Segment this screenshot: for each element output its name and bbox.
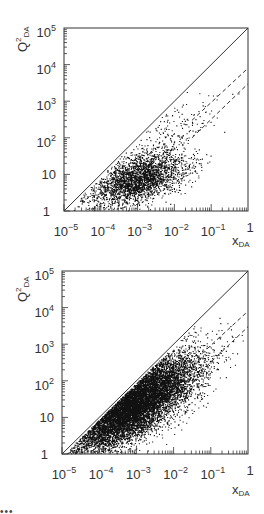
scatter-points [67,318,243,455]
y-label-sup: 2 [14,37,23,41]
y-tick-label: 103 [37,95,56,112]
x-tick-label: 10−1 [201,221,226,238]
x-tick-label: 10−2 [164,221,189,238]
y-tick-label: 1 [41,448,48,461]
y-label-sub: DA [22,276,31,287]
scatter-plot-top: Q2DA xDA 110102103104105 10−510−410−310−… [0,0,264,250]
x-tick-label: 10−5 [52,464,77,481]
scatter-points [74,92,240,211]
x-tick-label: 1 [246,464,253,477]
y-tick-label: 102 [35,375,54,392]
x-axis-label: xDA [232,233,250,249]
data-points [67,318,243,455]
y-tick-label: 102 [37,132,56,149]
x-tick-label: 10−2 [163,464,188,481]
x-axis-label: xDA [232,482,250,498]
y-tick-label: 10 [40,411,54,424]
scatter-plot-bottom: Q2DA xDA 110102103104105 10−510−410−310−… [0,250,264,506]
y-axis-label: Q2DA [14,26,31,52]
y-label-main: Q [15,42,30,52]
x-tick-label: 1 [246,221,253,234]
y-label-sub: DA [22,26,31,37]
x-tick-label: 10−1 [200,464,225,481]
x-tick-label: 10−5 [54,221,79,238]
y-tick-label: 10 [42,168,56,181]
y-tick-label: 104 [37,59,56,76]
y-tick-label: 105 [35,265,54,282]
x-tick-label: 10−3 [126,464,151,481]
x-label-sub: DA [239,489,250,498]
y-tick-label: 104 [35,302,54,319]
truncated-caption-text: ••• [0,506,264,514]
y-tick-label: 103 [35,338,54,355]
y-label-sup: 2 [14,287,23,291]
y-tick-label: 1 [43,205,50,218]
dashed-cut-line [191,327,248,381]
x-tick-label: 10−3 [127,221,152,238]
x-tick-label: 10−4 [90,221,115,238]
y-label-main: Q [15,292,30,302]
y-tick-label: 105 [37,22,56,39]
data-points [74,92,240,211]
x-tick-label: 10−4 [89,464,114,481]
y-axis-label: Q2DA [14,276,31,302]
x-label-sub: DA [239,240,250,249]
